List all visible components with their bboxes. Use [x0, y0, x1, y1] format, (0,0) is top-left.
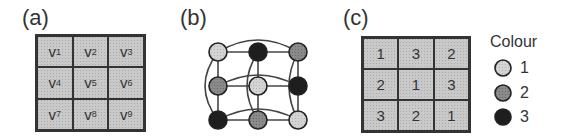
node-v8	[249, 111, 267, 129]
legend-swatch-1	[495, 60, 511, 76]
node-v6	[289, 77, 307, 95]
grid-cell: 1	[434, 100, 469, 131]
node-v3	[289, 43, 307, 61]
graph-nodes	[209, 43, 307, 129]
colouring-grid: 1 3 2 2 1 3 3 2 1	[361, 36, 471, 133]
legend-swatch-2	[495, 85, 511, 101]
grid-cell: 3	[363, 100, 398, 131]
node-v2	[249, 43, 267, 61]
node-v1	[209, 43, 227, 61]
legend-title: Colour	[490, 33, 537, 51]
legend-swatch-3	[495, 109, 511, 125]
legend-label-1: 1	[520, 59, 529, 77]
grid-cell: 2	[434, 38, 469, 69]
node-v7	[209, 111, 227, 129]
node-v5	[249, 77, 267, 95]
grid-cell: 1	[363, 38, 398, 69]
node-v9	[289, 111, 307, 129]
legend-label-3: 3	[520, 108, 529, 126]
panel-c-label: (c)	[343, 7, 369, 29]
grid-cell: 3	[434, 69, 469, 100]
constraint-graph	[0, 0, 561, 139]
legend-swatches	[495, 60, 511, 125]
grid-cell: 2	[398, 100, 433, 131]
grid-cell: 2	[363, 69, 398, 100]
grid-cell: 3	[398, 38, 433, 69]
legend-label-2: 2	[520, 84, 529, 102]
grid-cell: 1	[398, 69, 433, 100]
node-v4	[209, 77, 227, 95]
